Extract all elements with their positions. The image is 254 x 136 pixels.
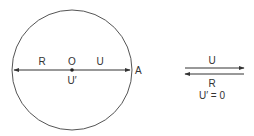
diagram-canvas: R O U U′ A U R U′ = 0 xyxy=(0,0,254,136)
label-o: O xyxy=(68,56,76,67)
legend-label-u: U xyxy=(208,55,215,66)
label-a: A xyxy=(135,65,142,76)
label-u: U xyxy=(96,56,103,67)
legend-equation: U′ = 0 xyxy=(199,90,225,101)
label-u-prime: U′ xyxy=(67,75,76,86)
center-point xyxy=(70,68,74,72)
legend-label-r: R xyxy=(208,78,215,89)
label-r: R xyxy=(38,56,45,67)
